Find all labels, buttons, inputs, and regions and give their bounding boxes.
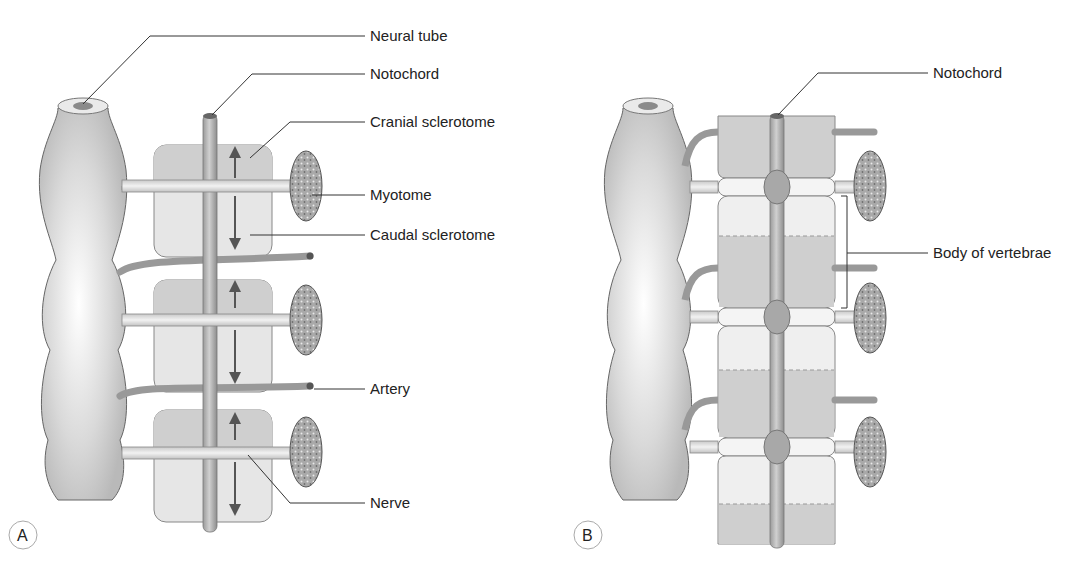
panel-label-a: A bbox=[17, 527, 28, 544]
label-artery: Artery bbox=[370, 380, 411, 397]
panel-b: Notochord Body of vertebrae B bbox=[574, 64, 1051, 549]
neural-tube-shape bbox=[604, 108, 691, 500]
figure-canvas: Neural tube Notochord Cranial sclerotome… bbox=[0, 0, 1071, 565]
label-notochord: Notochord bbox=[370, 65, 439, 82]
panel-label-b: B bbox=[582, 527, 593, 544]
neural-tube-shape bbox=[39, 108, 126, 500]
label-neural-tube: Neural tube bbox=[370, 27, 448, 44]
label-myotome: Myotome bbox=[370, 186, 432, 203]
label-body-of-vertebrae: Body of vertebrae bbox=[933, 244, 1051, 261]
myotome bbox=[290, 417, 322, 487]
myotome bbox=[290, 151, 322, 221]
label-caudal-sclerotome: Caudal sclerotome bbox=[370, 226, 495, 243]
label-notochord-b: Notochord bbox=[933, 64, 1002, 81]
panel-a: Neural tube Notochord Cranial sclerotome… bbox=[9, 27, 495, 549]
label-nerve: Nerve bbox=[370, 494, 410, 511]
myotome bbox=[290, 285, 322, 355]
label-cranial-sclerotome: Cranial sclerotome bbox=[370, 113, 495, 130]
